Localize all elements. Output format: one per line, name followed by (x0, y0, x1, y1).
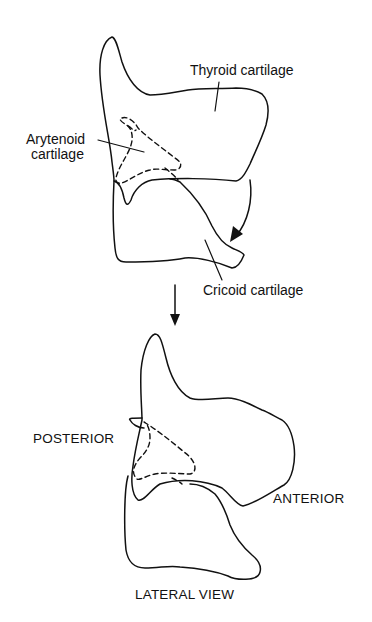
label-arytenoid-line1: Arytenoid (26, 132, 85, 147)
cricoid-cartilage-bottom (125, 476, 261, 579)
label-anterior: ANTERIOR (273, 491, 344, 506)
cricoid-cartilage-top (113, 179, 244, 268)
label-arytenoid-line2: cartilage (31, 147, 84, 162)
leader-arytenoid (98, 140, 144, 152)
diagram-drawing (0, 0, 372, 622)
label-cricoid-cartilage: Cricoid cartilage (203, 283, 303, 298)
leader-thyroid (215, 82, 219, 111)
curved-arrow-icon (236, 180, 251, 236)
larynx-cartilage-diagram: Thyroid cartilage Arytenoid cartilage Cr… (0, 0, 372, 622)
caption-lateral-view: LATERAL VIEW (135, 587, 234, 602)
arytenoid-cartilage-bottom (133, 422, 195, 479)
thyroid-cartilage-bottom (132, 334, 295, 506)
label-thyroid-cartilage: Thyroid cartilage (190, 63, 294, 78)
label-posterior: POSTERIOR (33, 431, 114, 446)
down-arrow-icon (170, 314, 180, 326)
